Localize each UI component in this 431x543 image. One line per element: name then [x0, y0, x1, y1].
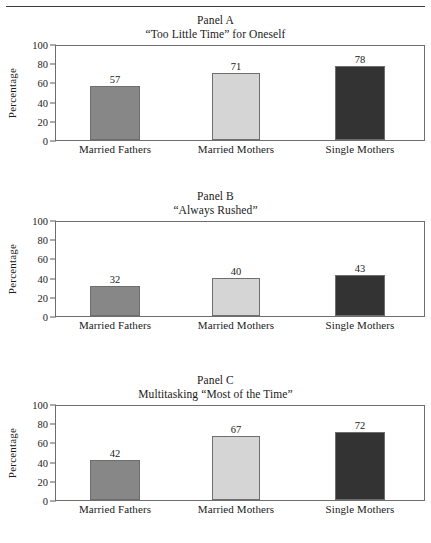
bar-value-label: 40 [231, 266, 242, 277]
panel-c-title: Panel C Multitasking “Most of the Time” [0, 374, 431, 401]
panel-c-x-tick-labels: Married Fathers Married Mothers Single M… [55, 503, 425, 521]
x-tick-label-married-mothers: Married Mothers [198, 503, 274, 515]
x-tick-label-single-mothers: Single Mothers [326, 319, 395, 331]
bar-value-label: 43 [355, 263, 366, 274]
bar-value-label: 32 [110, 274, 121, 285]
bar-married-fathers: 57 [90, 86, 140, 140]
y-tick-label: 80 [38, 59, 49, 70]
y-tick-label: 0 [43, 136, 48, 147]
y-tick-label: 80 [38, 419, 49, 430]
x-tick-label-single-mothers: Single Mothers [326, 143, 395, 155]
y-tick-label: 40 [38, 273, 49, 284]
panel-b: Panel B “Always Rushed” Percentage 0 20 … [0, 190, 431, 341]
panel-c-title-line1: Panel C [0, 374, 431, 388]
panel-b-title-line2: “Always Rushed” [0, 204, 431, 218]
bar-married-fathers: 42 [90, 460, 140, 500]
x-tick-label-single-mothers: Single Mothers [326, 503, 395, 515]
panel-a: Panel A “Too Little Time” for Oneself Pe… [0, 14, 431, 165]
y-tick-label: 40 [38, 457, 49, 468]
x-tick-label-married-fathers: Married Fathers [79, 319, 151, 331]
panel-b-x-tick-labels: Married Fathers Married Mothers Single M… [55, 319, 425, 337]
panel-b-plot: Percentage 0 20 40 60 80 100 32 40 [0, 221, 431, 341]
figure-container: Panel A “Too Little Time” for Oneself Pe… [0, 0, 431, 543]
panel-a-x-tick-labels: Married Fathers Married Mothers Single M… [55, 143, 425, 161]
panel-b-title-line1: Panel B [0, 190, 431, 204]
panel-a-title-line2: “Too Little Time” for Oneself [0, 28, 431, 42]
x-tick-label-married-fathers: Married Fathers [79, 143, 151, 155]
panel-a-title: Panel A “Too Little Time” for Oneself [0, 14, 431, 41]
bar-single-mothers: 43 [335, 275, 385, 316]
panel-a-y-tick-labels: 0 20 40 60 80 100 [18, 45, 52, 141]
panel-c-y-tick-labels: 0 20 40 60 80 100 [18, 405, 52, 501]
top-horizontal-rule [6, 6, 425, 7]
panel-c-title-line2: Multitasking “Most of the Time” [0, 388, 431, 402]
panel-c-bars: 42 67 72 [56, 405, 424, 500]
panel-a-plot: Percentage 0 20 40 60 80 100 57 71 [0, 45, 431, 165]
bar-single-mothers: 72 [335, 432, 385, 500]
y-tick-label: 60 [38, 78, 49, 89]
bar-value-label: 72 [355, 420, 366, 431]
panel-a-title-line1: Panel A [0, 14, 431, 28]
bar-value-label: 57 [110, 74, 121, 85]
y-tick-label: 100 [32, 216, 48, 227]
bar-value-label: 42 [110, 448, 121, 459]
bar-married-mothers: 67 [212, 436, 260, 500]
y-tick-label: 20 [38, 476, 49, 487]
panel-c-plot: Percentage 0 20 40 60 80 100 42 67 [0, 405, 431, 525]
y-tick-label: 20 [38, 116, 49, 127]
panel-a-bars: 57 71 78 [56, 45, 424, 140]
y-tick-label: 100 [32, 40, 48, 51]
bar-value-label: 78 [355, 54, 366, 65]
y-tick-label: 60 [38, 438, 49, 449]
x-tick-label-married-mothers: Married Mothers [198, 319, 274, 331]
bar-single-mothers: 78 [335, 66, 385, 140]
y-tick-label: 60 [38, 254, 49, 265]
bar-married-mothers: 71 [212, 73, 260, 141]
x-tick-label-married-mothers: Married Mothers [198, 143, 274, 155]
y-tick-label: 80 [38, 235, 49, 246]
panel-b-y-tick-labels: 0 20 40 60 80 100 [18, 221, 52, 317]
y-tick-label: 0 [43, 312, 48, 323]
bar-value-label: 71 [231, 61, 242, 72]
y-tick-label: 40 [38, 97, 49, 108]
y-tick-label: 0 [43, 496, 48, 507]
y-tick-label: 100 [32, 400, 48, 411]
panel-b-bars: 32 40 43 [56, 221, 424, 316]
x-tick-label-married-fathers: Married Fathers [79, 503, 151, 515]
panel-b-title: Panel B “Always Rushed” [0, 190, 431, 217]
panel-c: Panel C Multitasking “Most of the Time” … [0, 374, 431, 525]
bar-married-mothers: 40 [212, 278, 260, 316]
bar-married-fathers: 32 [90, 286, 140, 316]
bar-value-label: 67 [231, 424, 242, 435]
y-tick-label: 20 [38, 292, 49, 303]
